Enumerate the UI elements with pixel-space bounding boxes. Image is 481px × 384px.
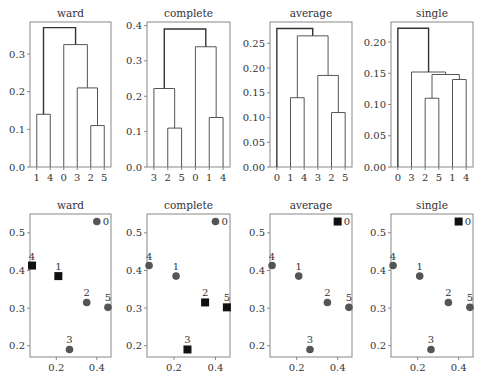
point-circle-marker <box>306 346 314 354</box>
dendrogram-link <box>91 126 105 167</box>
point-label: 4 <box>29 251 35 262</box>
point-square-marker <box>334 218 342 226</box>
y-tick-label: 0.2 <box>126 91 142 102</box>
dendrogram-link <box>44 28 76 115</box>
point-circle-marker <box>345 304 353 312</box>
leaf-label: 2 <box>88 172 94 183</box>
leaf-label: 5 <box>342 172 348 183</box>
x-tick-label: 0.2 <box>166 362 182 373</box>
point-circle-marker <box>66 346 74 354</box>
y-tick-label: 0.20 <box>364 37 386 48</box>
y-tick-label: 0.5 <box>126 227 142 238</box>
y-tick-label: 0.0 <box>126 162 142 173</box>
dendrogram-link <box>425 98 439 167</box>
point-label: 3 <box>184 334 190 345</box>
dendrogram-panel-ward: ward0.00.10.20.3140325 <box>9 7 111 183</box>
point-label: 1 <box>173 261 179 272</box>
leaf-label: 1 <box>287 172 293 183</box>
dendrogram-link <box>398 28 429 167</box>
point-label: 5 <box>467 292 473 303</box>
point-label: 2 <box>445 287 451 298</box>
y-tick-label: 0.3 <box>126 55 142 66</box>
point-circle-marker <box>83 299 91 307</box>
y-tick-label: 0.3 <box>370 303 386 314</box>
point-circle-marker <box>324 299 332 307</box>
x-tick-label: 0.4 <box>451 362 467 373</box>
figure: ward0.00.10.20.3140325 complete0.00.10.2… <box>0 0 481 384</box>
dendrogram-panel-average: average0.000.050.100.150.200.25014325 <box>243 7 352 183</box>
y-tick-label: 0.3 <box>126 303 142 314</box>
y-tick-label: 0.3 <box>9 49 25 60</box>
dendrogram-link <box>297 36 328 98</box>
dendrogram-link <box>332 113 346 167</box>
leaf-label: 3 <box>315 172 321 183</box>
axes-frame <box>30 22 111 167</box>
y-tick-label: 0.2 <box>9 340 25 351</box>
dendrogram-link <box>164 29 206 88</box>
point-square-marker <box>28 262 36 270</box>
point-label: 2 <box>84 287 90 298</box>
point-circle-marker <box>145 262 153 270</box>
x-tick-label: 0.4 <box>208 362 224 373</box>
leaf-label: 2 <box>328 172 334 183</box>
y-tick-label: 0.2 <box>9 86 25 97</box>
point-square-marker <box>183 345 191 353</box>
x-tick-label: 0.4 <box>89 362 105 373</box>
y-tick-label: 0.1 <box>9 124 25 135</box>
point-circle-marker <box>416 272 424 280</box>
point-label: 0 <box>103 216 109 227</box>
panel-title: complete <box>164 199 213 211</box>
y-tick-label: 0.1 <box>126 126 142 137</box>
point-label: 2 <box>202 287 208 298</box>
y-tick-label: 0.4 <box>126 20 142 31</box>
dendrogram-link <box>64 45 88 167</box>
x-tick-label: 0.4 <box>330 362 346 373</box>
point-circle-marker <box>295 272 303 280</box>
y-tick-label: 0.3 <box>9 303 25 314</box>
y-tick-label: 0.4 <box>9 265 25 276</box>
leaf-label: 4 <box>47 172 53 183</box>
scatter-panel-average: average0.20.30.40.50.20.4012345 <box>249 199 353 373</box>
y-tick-label: 0.10 <box>243 112 265 123</box>
point-square-marker <box>455 218 463 226</box>
y-tick-label: 0.5 <box>249 227 265 238</box>
leaf-label: 3 <box>151 172 157 183</box>
point-label: 3 <box>66 334 72 345</box>
y-tick-label: 0.10 <box>364 99 386 110</box>
dendrogram-panel-complete: complete0.00.10.20.30.4325014 <box>126 7 230 183</box>
leaf-label: 2 <box>165 172 171 183</box>
point-square-marker <box>201 298 209 306</box>
panel-title: single <box>416 7 448 19</box>
y-tick-label: 0.3 <box>249 303 265 314</box>
y-tick-label: 0.4 <box>126 265 142 276</box>
y-tick-label: 0.15 <box>364 68 386 79</box>
y-tick-label: 0.20 <box>243 63 265 74</box>
point-label: 2 <box>324 287 330 298</box>
point-circle-marker <box>172 272 180 280</box>
panel-title: average <box>290 7 333 19</box>
leaf-label: 5 <box>436 172 442 183</box>
point-square-marker <box>54 272 62 280</box>
point-circle-marker <box>445 299 453 307</box>
dendrogram-panel-single: single0.000.050.100.150.20032514 <box>364 7 473 183</box>
leaf-label: 3 <box>74 172 80 183</box>
point-label: 1 <box>417 261 423 272</box>
point-circle-marker <box>389 262 397 270</box>
panel-title: ward <box>57 199 84 211</box>
dendrogram-link <box>432 75 459 99</box>
axes-frame <box>270 22 352 167</box>
leaf-label: 3 <box>408 172 414 183</box>
point-circle-marker <box>268 262 276 270</box>
x-tick-label: 0.2 <box>48 362 64 373</box>
leaf-label: 4 <box>301 172 307 183</box>
point-label: 1 <box>55 261 61 272</box>
leaf-label: 5 <box>101 172 107 183</box>
point-circle-marker <box>466 304 474 312</box>
leaf-label: 0 <box>61 172 67 183</box>
y-tick-label: 0.4 <box>370 265 386 276</box>
point-label: 4 <box>269 251 275 262</box>
y-tick-label: 0.05 <box>364 130 386 141</box>
axes-frame <box>147 22 230 167</box>
y-tick-label: 0.25 <box>243 38 265 49</box>
point-label: 5 <box>346 292 352 303</box>
